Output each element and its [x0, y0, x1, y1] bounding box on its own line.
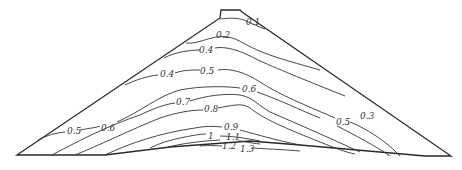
contour-label: 0.1 — [246, 17, 260, 27]
contour-label: 0.5 — [67, 126, 82, 136]
contour-label: 1.2 — [222, 141, 237, 151]
contour-label: 0.6 — [242, 84, 257, 94]
contour-label: 0.7 — [176, 97, 191, 107]
contour-diagram: 0.1 0.2 0.4 0.4 0.5 0.6 0.7 0.8 0.9 1 1.… — [0, 0, 462, 170]
contour-label: 0.3 — [360, 111, 375, 121]
contour-label: 0.4 — [160, 69, 175, 79]
contour-label: 0.8 — [204, 104, 219, 114]
contour-label: 0.6 — [101, 123, 116, 133]
contour-label: 0.2 — [216, 30, 231, 40]
contour-label: 0.9 — [224, 122, 239, 132]
contour-0-4-0-5 — [125, 70, 400, 157]
contour-label: 0.5 — [200, 66, 215, 76]
contour-label: 0.5 — [336, 117, 351, 127]
contour-label: 1.3 — [240, 144, 255, 154]
contour-label: 0.4 — [199, 45, 214, 55]
contour-0-9 — [105, 126, 300, 155]
contour-label: 1 — [208, 131, 214, 141]
